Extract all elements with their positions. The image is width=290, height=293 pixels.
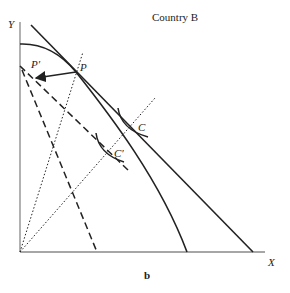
- dashed-price-line-steep: [22, 70, 97, 252]
- arrow-p-to-p-prime: [36, 72, 76, 78]
- figure-title: Country B: [152, 11, 198, 23]
- dotted-ray-steep: [20, 52, 83, 252]
- point-label-p: P: [79, 61, 87, 73]
- x-axis-label: X: [267, 256, 276, 268]
- ppf-curve: [20, 44, 187, 252]
- panel-label: b: [144, 269, 150, 281]
- point-label-p-prime: P′: [30, 58, 41, 70]
- trade-diagram: Y X Country B b P P′ C C′: [0, 0, 290, 293]
- point-label-c-prime: C′: [114, 147, 124, 159]
- price-line: [31, 25, 253, 252]
- point-label-c: C: [138, 121, 146, 133]
- y-axis-label: Y: [8, 18, 16, 30]
